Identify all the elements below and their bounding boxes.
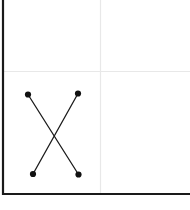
grid-lines xyxy=(4,0,190,193)
figure-canvas xyxy=(0,0,190,210)
data-line-segments xyxy=(28,94,79,175)
data-point-marker-1-1 xyxy=(30,171,36,177)
data-point-marker-1-0 xyxy=(75,90,81,96)
data-point-marker-0-0 xyxy=(25,91,31,97)
data-point-marker-0-1 xyxy=(75,171,81,177)
plot-svg xyxy=(0,0,190,210)
